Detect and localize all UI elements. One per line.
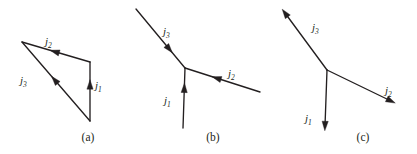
label-a-j3: j3	[18, 74, 27, 89]
label-c-j3: j3	[310, 21, 319, 36]
caption-a: (a)	[82, 131, 95, 144]
wire-c-j1	[325, 70, 327, 126]
panel-c: j1j2j3(c)	[282, 9, 395, 144]
arrow-icon-b-j2	[212, 77, 222, 83]
arrow-icon-b-j1	[181, 83, 187, 93]
label-b-j2: j2	[226, 67, 235, 82]
label-c-j1: j1	[303, 112, 312, 127]
wire-b-j3	[136, 9, 185, 68]
arrow-icon-c-j3	[282, 9, 290, 18]
label-b-j3: j3	[161, 25, 170, 40]
wire-c-j2	[327, 70, 391, 101]
wire-c-j3	[285, 13, 327, 70]
arrow-icon-c-j1	[322, 121, 328, 131]
arrow-icon-a-j1	[87, 80, 93, 90]
label-a-j1: j1	[93, 79, 102, 94]
panels-group: j1j2j3(a)j1j2j3(b)j1j2j3(c)	[18, 9, 395, 144]
caption-b: (b)	[206, 131, 220, 144]
label-a-j2: j2	[43, 35, 52, 50]
arrow-icon-a-j2	[50, 50, 60, 56]
current-junction-figure: j1j2j3(a)j1j2j3(b)j1j2j3(c)	[0, 0, 417, 154]
panel-a: j1j2j3(a)	[18, 35, 102, 144]
label-b-j1: j1	[162, 94, 171, 109]
wire-b-j2	[185, 68, 260, 92]
panel-b: j1j2j3(b)	[136, 9, 260, 144]
label-c-j2: j2	[383, 84, 392, 99]
figure-container: j1j2j3(a)j1j2j3(b)j1j2j3(c)	[0, 0, 417, 154]
caption-c: (c)	[357, 131, 370, 144]
wire-b-j1	[183, 68, 185, 128]
